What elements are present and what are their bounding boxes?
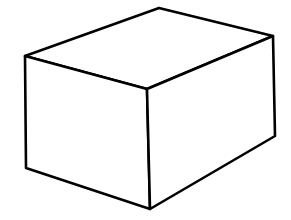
box-drawing-canvas xyxy=(0,0,291,220)
cuboid-figure xyxy=(0,0,291,220)
